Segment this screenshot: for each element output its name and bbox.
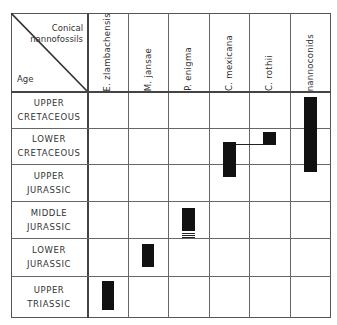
- range-bar-p-enigma: [182, 208, 195, 231]
- column-header-m-jansae: M. jansae: [128, 13, 168, 91]
- row-label-line2: JURASSIC: [27, 220, 71, 234]
- range-uncertain-stripe: [182, 235, 195, 236]
- column-label: C. mexicana: [224, 31, 234, 91]
- row-label-upper-jurassic: UPPER JURASSIC: [11, 164, 87, 201]
- row-label-lower-jurassic: LOWER JURASSIC: [11, 238, 87, 276]
- corner-label-line1: Conical: [30, 23, 83, 34]
- column-label: E. zlambachensis: [102, 9, 112, 91]
- row-label-middle-jurassic: MIDDLE JURASSIC: [11, 201, 87, 238]
- column-label: C. rothii: [264, 51, 274, 91]
- range-uncertain-stripe: [182, 237, 195, 238]
- row-label-line2: JURASSIC: [27, 257, 71, 271]
- row-label-line1: LOWER: [32, 132, 66, 146]
- column-header-e-zlambachensis: E. zlambachensis: [87, 13, 127, 91]
- range-bar-c-mexicana: [223, 142, 236, 177]
- range-uncertain-stripe: [182, 233, 195, 234]
- column-header-nannoconids: nannoconids: [290, 13, 330, 91]
- row-label-lower-cretaceous: LOWER CRETACEOUS: [11, 128, 87, 164]
- row-label-line1: LOWER: [32, 243, 66, 257]
- range-bar-c-rothii: [263, 132, 276, 145]
- row-label-line2: CRETACEOUS: [17, 146, 80, 160]
- row-label-upper-cretaceous: UPPER CRETACEOUS: [11, 91, 87, 128]
- column-header-p-enigma: P. enigma: [168, 13, 208, 91]
- row-label-line1: UPPER: [34, 169, 65, 183]
- corner-label-line2: nannofossils: [30, 34, 83, 45]
- stratigraphic-range-chart: Conical nannofossils Age E. zlambachensi…: [0, 0, 337, 325]
- lineage-connector: [236, 144, 263, 145]
- column-label: P. enigma: [183, 43, 193, 91]
- age-axis-label: Age: [17, 74, 33, 84]
- column-label: M. jansae: [143, 44, 153, 91]
- range-bar-e-zlambachensis: [102, 281, 114, 310]
- row-label-line2: TRIASSIC: [27, 297, 70, 311]
- column-header-c-rothii: C. rothii: [249, 13, 289, 91]
- row-label-line1: UPPER: [34, 283, 65, 297]
- row-label-line2: JURASSIC: [27, 183, 71, 197]
- range-bar-m-jansae: [142, 244, 154, 267]
- column-label: nannoconids: [305, 30, 315, 91]
- row-label-line1: UPPER: [34, 96, 65, 110]
- row-label-upper-triassic: UPPER TRIASSIC: [11, 276, 87, 318]
- row-label-line1: MIDDLE: [31, 206, 68, 220]
- row-label-line2: CRETACEOUS: [17, 110, 80, 124]
- range-bar-nannoconids: [304, 97, 317, 172]
- column-header-c-mexicana: C. mexicana: [209, 13, 249, 91]
